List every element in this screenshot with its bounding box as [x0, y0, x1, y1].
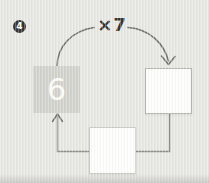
problem-number-badge: 4	[13, 20, 26, 33]
multiply-arc-left	[57, 28, 94, 68]
answer-square-bottom[interactable]	[89, 127, 136, 174]
connector-left	[58, 117, 89, 152]
worksheet-page: 4 ×7 6	[0, 0, 209, 183]
start-number-square: 6	[33, 66, 80, 113]
answer-square-product[interactable]	[145, 68, 192, 114]
multiplier-label: ×7	[94, 13, 130, 37]
start-number-value: 6	[47, 75, 66, 105]
connector-right	[137, 114, 170, 152]
